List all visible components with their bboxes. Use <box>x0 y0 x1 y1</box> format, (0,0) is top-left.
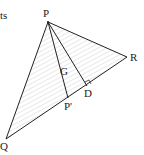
point-p <box>47 21 49 23</box>
label-q: Q <box>0 140 8 152</box>
caption-fragment: ts <box>0 9 7 21</box>
label-p-prime: P' <box>64 100 72 112</box>
triangle-diagram: ts P R G D P' Q <box>0 0 144 155</box>
label-g: G <box>60 65 68 77</box>
label-p: P <box>43 7 49 19</box>
triangle-fill <box>6 22 127 139</box>
label-r: R <box>130 51 138 63</box>
label-d: D <box>84 87 92 99</box>
